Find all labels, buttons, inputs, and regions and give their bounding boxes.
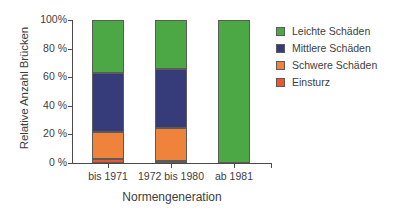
bar-segment	[155, 161, 187, 163]
legend-item[interactable]: Leichte Schäden	[276, 24, 377, 39]
y-tick-mark	[68, 106, 72, 107]
bar-segment	[92, 159, 124, 163]
stacked-bar-chart: Relative Anzahl Brücken 0 %20 %40 %60 %8…	[0, 0, 401, 214]
legend-swatch-icon	[276, 61, 285, 70]
y-tick: 0 %	[72, 163, 76, 164]
y-tick-label: 20 %	[43, 127, 67, 139]
x-tick-mark	[171, 164, 172, 168]
x-tick-mark-end	[271, 164, 272, 168]
legend-item[interactable]: Einsturz	[276, 75, 377, 90]
y-tick: 100%	[72, 20, 76, 21]
legend-item[interactable]: Mittlere Schäden	[276, 41, 377, 56]
legend-swatch-icon	[276, 27, 285, 36]
bar-2	[155, 20, 187, 163]
legend-swatch-icon	[276, 44, 285, 53]
y-tick-label: 40 %	[43, 99, 67, 111]
y-tick-mark	[68, 134, 72, 135]
x-axis-title: Normengeneration	[72, 190, 272, 204]
legend-label: Leichte Schäden	[292, 25, 370, 37]
y-tick: 20 %	[72, 134, 76, 135]
x-category-label: bis 1971	[88, 170, 128, 182]
y-axis-title: Relative Anzahl Brücken	[18, 8, 30, 168]
y-axis-line	[72, 20, 73, 164]
y-tick: 60 %	[72, 77, 76, 78]
x-category-label: ab 1981	[215, 170, 253, 182]
y-tick: 80 %	[72, 49, 76, 50]
plot-area: 0 %20 %40 %60 %80 %100% bis 19711972 bis…	[72, 20, 264, 163]
bar-segment	[92, 73, 124, 132]
y-tick-mark	[68, 77, 72, 78]
bar-segment	[92, 132, 124, 159]
legend-label: Einsturz	[292, 76, 330, 88]
y-tick: 40 %	[72, 106, 76, 107]
bar-segment	[155, 20, 187, 69]
y-tick-label: 80 %	[43, 42, 67, 54]
y-tick-mark	[68, 163, 72, 164]
bar-segment	[155, 128, 187, 161]
y-tick-mark	[68, 49, 72, 50]
legend-label: Mittlere Schäden	[292, 42, 371, 54]
legend-swatch-icon	[276, 78, 285, 87]
legend-label: Schwere Schäden	[292, 59, 377, 71]
x-axis-line	[72, 163, 272, 164]
x-tick-mark	[108, 164, 109, 168]
x-category-label: 1972 bis 1980	[138, 170, 204, 182]
legend: Leichte SchädenMittlere SchädenSchwere S…	[276, 24, 377, 92]
legend-item[interactable]: Schwere Schäden	[276, 58, 377, 73]
y-tick-label: 100%	[40, 13, 67, 25]
bar-segment	[155, 69, 187, 128]
x-tick-mark	[234, 164, 235, 168]
bar-segment	[92, 20, 124, 73]
y-tick-label: 0 %	[49, 156, 67, 168]
y-tick-mark	[68, 20, 72, 21]
bar-segment	[218, 20, 250, 163]
bar-1	[92, 20, 124, 163]
bar-3	[218, 20, 250, 163]
y-tick-label: 60 %	[43, 70, 67, 82]
